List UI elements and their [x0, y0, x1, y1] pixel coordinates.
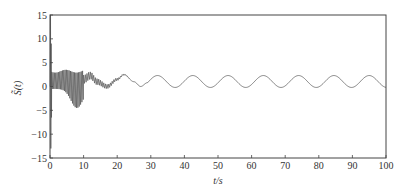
- x-tick-label: 60: [247, 160, 257, 171]
- x-axis-label: t/s: [213, 175, 223, 186]
- x-tick-label: 10: [79, 160, 89, 171]
- y-tick-label: 0: [42, 81, 47, 92]
- y-tick-label: −5: [36, 105, 47, 116]
- y-tick-label: 10: [37, 33, 47, 44]
- y-tick-label: −15: [31, 153, 47, 164]
- background: [0, 0, 405, 192]
- y-tick-label: −10: [31, 129, 47, 140]
- x-tick-label: 0: [48, 160, 53, 171]
- y-tick-label: 5: [42, 57, 47, 68]
- x-tick-label: 50: [213, 160, 223, 171]
- x-tick-label: 70: [280, 160, 290, 171]
- x-tick-label: 100: [379, 160, 394, 171]
- chart-canvas: 0102030405060708090100 151050−5−10−15 t/…: [0, 0, 405, 192]
- y-tick-label: 15: [37, 10, 47, 21]
- x-tick-label: 90: [347, 160, 357, 171]
- x-tick-label: 80: [314, 160, 324, 171]
- y-axis-label: S̃(t): [11, 80, 24, 95]
- x-tick-label: 40: [179, 160, 189, 171]
- x-tick-label: 20: [112, 160, 122, 171]
- x-tick-label: 30: [146, 160, 156, 171]
